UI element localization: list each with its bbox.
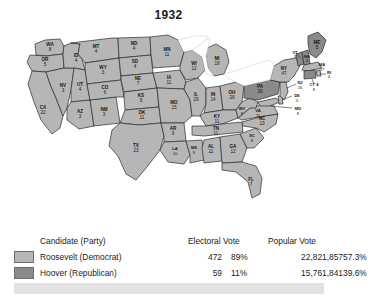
cell-popular-vote: 15,761,841 <box>277 268 343 278</box>
cell-electoral-vote: 472 <box>188 252 222 262</box>
bottom-band <box>14 283 324 294</box>
cell-electoral-vote: 59 <box>188 268 222 278</box>
table-row[interactable]: Roosevelt (Democrat) 472 89% 22,821,857 … <box>14 249 324 265</box>
label-CT: CT 48 <box>310 82 320 92</box>
leader-line-nj <box>287 84 296 88</box>
page-title: 1932 <box>0 8 337 22</box>
label-MI: MI19 <box>214 56 220 66</box>
cell-candidate: Hoover (Republican) <box>40 268 188 278</box>
us-electoral-map: WA8 OR5 CA22 NV3 ID4 MT4 WY3 UT4 AZ3 NM3… <box>8 24 333 229</box>
header-electoral-vote: Electoral Vote <box>188 236 268 246</box>
header-candidate: Candidate (Party) <box>40 236 188 246</box>
label-NJ: NJ16 <box>297 80 303 90</box>
state-NJ[interactable] <box>280 82 288 100</box>
table-header-row: Candidate (Party) Electoral Vote Popular… <box>14 232 324 249</box>
header-popular-vote: Popular Vote <box>268 236 334 246</box>
cell-popular-pct: 57.3% <box>343 252 369 262</box>
label-MA: MA17 <box>319 62 325 72</box>
label-NY: NY47 <box>281 66 287 76</box>
label-RI: RI4 <box>327 70 331 79</box>
label-AL: AL11 <box>208 144 214 154</box>
label-MD: MD8 <box>295 106 301 116</box>
cell-candidate: Roosevelt (Democrat) <box>40 252 188 262</box>
cell-popular-pct: 39.6% <box>343 268 369 278</box>
legend-swatch-republican <box>14 267 34 279</box>
cell-electoral-pct: 89% <box>222 252 277 262</box>
state-CT[interactable] <box>304 70 316 79</box>
swatch-spacer <box>14 235 34 247</box>
results-table: Candidate (Party) Electoral Vote Popular… <box>14 232 324 281</box>
label-VA: VA11 <box>255 108 261 118</box>
cell-popular-vote: 22,821,857 <box>277 252 343 262</box>
cell-electoral-pct: 11% <box>222 268 277 278</box>
label-KY: KY11 <box>214 114 220 124</box>
legend-swatch-democrat <box>14 251 34 263</box>
label-WI: WI12 <box>191 61 197 71</box>
label-DE: DE3 <box>294 93 300 103</box>
label-LA: LA10 <box>172 146 178 156</box>
state-FL[interactable] <box>222 162 262 198</box>
label-IA: IA11 <box>167 75 172 85</box>
label-IN: IN14 <box>210 92 216 102</box>
table-row[interactable]: Hoover (Republican) 59 11% 15,761,841 39… <box>14 265 324 281</box>
